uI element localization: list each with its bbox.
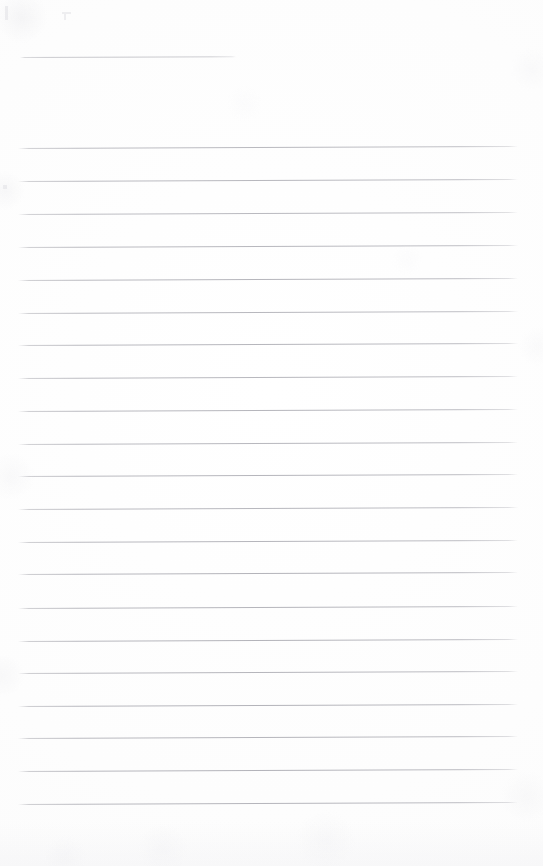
ruled-line: [18, 442, 518, 445]
ruled-line: [18, 639, 518, 642]
ruled-line: [18, 736, 518, 739]
ruled-line: [18, 212, 518, 215]
ruled-line: [18, 769, 518, 772]
ruled-line: [18, 704, 518, 707]
ruled-line: [18, 179, 518, 182]
ruled-line: [18, 572, 518, 575]
ruled-line: [18, 311, 518, 314]
ruled-line: [18, 474, 518, 477]
ruled-line: [18, 540, 518, 543]
ruled-line: [18, 245, 518, 248]
ruled-line: [18, 343, 518, 346]
ruled-line: [18, 606, 518, 609]
ruled-line: [18, 671, 518, 674]
ruled-lines-layer: [0, 0, 543, 866]
ruled-line: [18, 507, 518, 510]
ruled-line: [20, 56, 236, 58]
ruled-line: [18, 146, 518, 149]
scanned-page: [0, 0, 543, 866]
ruled-line: [18, 802, 518, 805]
ruled-line: [18, 409, 518, 412]
ruled-line: [18, 376, 518, 379]
ruled-line: [18, 278, 518, 281]
